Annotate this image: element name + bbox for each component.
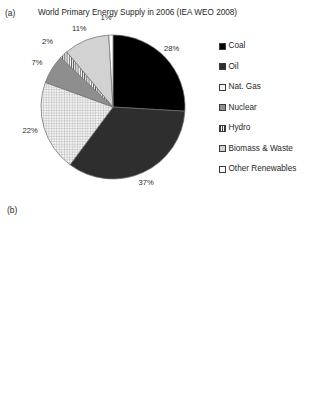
pie-label-other: 1% [100,13,111,22]
legend-swatch-coal-icon [219,43,226,50]
legend-label: Nuclear [229,104,257,112]
legend-item-gas[interactable]: Nat. Gas [219,77,296,98]
legend-a: CoalOilNat. GasNuclearHydroBiomass & Was… [219,36,296,180]
legend-swatch-hydro-icon [219,125,226,132]
pie-a-svg [38,32,188,182]
panel-a: (a) World Primary Energy Supply in 2006 … [0,0,321,196]
legend-item-hydro[interactable]: Hydro [219,118,296,139]
pie-label-oil: 37% [138,178,153,187]
pie-label-nuclear: 7% [32,58,43,67]
pie-label-coal: 28% [164,44,179,53]
pie-label-hydro: 2% [42,37,53,46]
legend-item-biomass[interactable]: Biomass & Waste [219,139,296,160]
legend-swatch-oil-icon [219,63,226,70]
legend-label: Hydro [229,124,251,132]
pie-chart-a [38,32,188,182]
legend-label: Oil [229,63,239,71]
legend-swatch-biomass-icon [219,145,226,152]
legend-item-oil[interactable]: Oil [219,57,296,78]
panel-a-title: World Primary Energy Supply in 2006 (IEA… [30,8,245,19]
pie-label-gas: 22% [23,126,38,135]
legend-label: Coal [229,42,246,50]
panel-b: (b) World primary energy supply in 2050 … [0,196,321,398]
panel-a-letter: (a) [5,8,15,18]
legend-item-other[interactable]: Other Renewables [219,159,296,180]
panel-b-letter: (b) [7,205,17,215]
legend-item-nuclear[interactable]: Nuclear [219,98,296,119]
legend-item-coal[interactable]: Coal [219,36,296,57]
pie-label-biomass: 11% [72,24,87,33]
legend-label: Nat. Gas [229,83,261,91]
legend-swatch-other-icon [219,166,226,173]
legend-label: Biomass & Waste [229,145,293,153]
legend-swatch-nuclear-icon [219,104,226,111]
legend-swatch-gas-icon [219,84,226,91]
legend-label: Other Renewables [229,165,297,173]
